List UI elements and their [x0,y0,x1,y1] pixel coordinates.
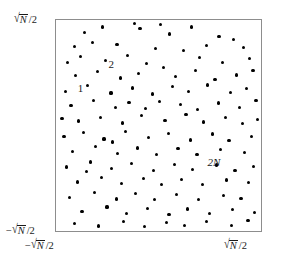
scatter-point [235,73,238,76]
scatter-point [198,56,201,59]
scatter-point [175,193,178,196]
scatter-point [104,59,107,62]
scatter-point [71,150,74,153]
scatter-point [217,35,220,38]
scatter-point [248,57,251,60]
scatter-point [162,66,165,69]
scatter-point [115,43,118,46]
scatter-point [80,210,83,213]
scatter-point [146,207,149,210]
scatter-point [60,117,63,120]
scatter-point [93,191,96,194]
scatter-point [163,119,166,122]
point-label-2: 2 [108,59,114,70]
scatter-point [124,130,127,133]
scatter-point [144,107,147,110]
scatter-point [205,44,208,47]
scatter-point [252,165,255,168]
scatter-point [82,131,85,134]
scatter-point [195,153,198,156]
scatter-point [120,182,123,185]
scatter-point [65,165,68,168]
scatter-point [180,178,183,181]
scatter-point [159,23,162,26]
scatter-point [99,116,102,119]
scatter-point [250,135,253,138]
scatter-point [196,108,199,111]
scatter-point [64,90,67,93]
x-axis-left-tick-label: −√N/2 [25,240,54,252]
scatter-point [83,31,86,34]
scatter-point [227,139,230,142]
scatter-point [232,38,235,41]
scatter-point [184,113,187,116]
scatter-point [201,183,204,186]
scatter-point [253,211,256,214]
scatter-point [174,75,177,78]
scatter-point [238,106,241,109]
scatter-point [89,160,92,163]
scatter-point [79,55,82,58]
scatter-point [153,198,156,201]
scatter-point [76,180,79,183]
scatter-point [167,132,170,135]
scatter-point [147,136,150,139]
scatter-point [243,151,246,154]
scatter-point [119,76,122,79]
scatter-point [77,119,80,122]
scatter-point [202,120,205,123]
scatter-point [96,70,99,73]
scatter-figure: √N/2 −√N/2 −√N/2 √N/2 1 2 2N [0,0,292,268]
scatter-point [86,84,89,87]
scatter-point [121,121,124,124]
scatter-point [145,62,148,65]
scatter-point [127,101,130,104]
scatter-point [256,118,259,121]
scatter-point [182,49,185,52]
scatter-point [217,101,220,104]
scatter-point [69,104,72,107]
scatter-point [138,27,141,30]
scatter-points-layer [56,20,261,231]
scatter-point [221,61,224,64]
scatter-point [116,152,119,155]
scatter-point [155,153,158,156]
scatter-point [197,198,200,201]
scatter-point [222,194,225,197]
scatter-point [94,145,97,148]
scatter-point [191,168,194,171]
scatter-point [143,225,146,228]
scatter-point [229,91,232,94]
scatter-point [165,221,168,224]
scatter-point [168,32,171,35]
scatter-point [213,78,216,81]
scatter-point [68,196,71,199]
y-axis-top-tick-label: √N/2 [14,14,37,26]
scatter-point [142,177,145,180]
scatter-point [105,205,108,208]
scatter-point [152,169,155,172]
scatter-point [247,181,250,184]
scatter-point [224,116,227,119]
scatter-point [254,99,257,102]
scatter-point [151,92,154,95]
scatter-point [137,72,140,75]
scatter-point [230,224,233,227]
x-axis-right-tick-label: √N/2 [224,240,247,252]
scatter-point [100,176,103,179]
scatter-point [109,91,112,94]
scatter-point [74,74,77,77]
scatter-point [225,178,228,181]
scatter-point [114,106,117,109]
scatter-point [167,213,170,216]
scatter-point [91,41,94,44]
scatter-point [245,87,248,90]
scatter-point [233,169,236,172]
scatter-point [73,222,76,225]
scatter-point [205,220,208,223]
scatter-point [85,170,88,173]
scatter-point [176,147,179,150]
scatter-point [122,220,125,223]
scatter-point [160,183,163,186]
scatter-point [92,99,95,102]
